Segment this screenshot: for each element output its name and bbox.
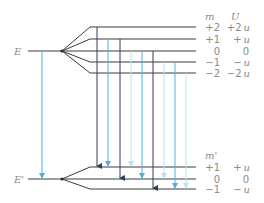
m-prime-column-header: m' <box>205 150 217 161</box>
upper-level-label: E <box>13 46 22 57</box>
m-prime-value: +1 <box>205 162 220 173</box>
u-value: −2u <box>227 68 250 79</box>
m-prime-value: −1 <box>205 184 220 195</box>
u-column-header: U <box>231 11 240 22</box>
u-value: 0 <box>243 46 249 57</box>
m-column-header: m <box>205 11 214 22</box>
lower-level-label: E' <box>13 174 24 185</box>
m-value: +2 <box>205 22 220 33</box>
u-value: +u <box>233 34 250 45</box>
u-prime-value: −u <box>233 184 250 195</box>
upper-sublevel-plus1 <box>62 39 196 51</box>
zeeman-diagram: E m U +2 +1 0 −1 −2 +2u +u 0 −u −2u E' m… <box>0 0 264 203</box>
m-value: −1 <box>205 57 220 68</box>
u-prime-value: +u <box>233 162 250 173</box>
m-value: −2 <box>205 68 220 79</box>
m-value: 0 <box>214 46 220 57</box>
u-value: +2u <box>227 22 250 33</box>
m-value: +1 <box>205 34 220 45</box>
u-value: −u <box>233 57 250 68</box>
upper-sublevel-minus1 <box>62 51 196 62</box>
lower-sublevel-plus1 <box>62 167 196 179</box>
lower-sublevel-minus1 <box>62 179 196 189</box>
